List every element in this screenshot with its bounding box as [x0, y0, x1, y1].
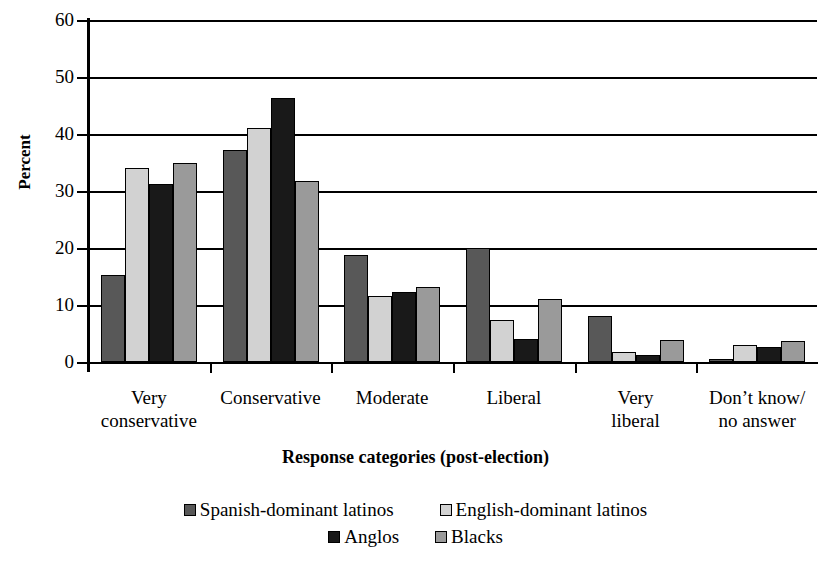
legend-row-2: Anglos Blacks: [0, 523, 831, 550]
legend-swatch-icon: [184, 504, 196, 516]
y-axis-tick: [77, 191, 87, 193]
x-axis-tick-label-line: Don’t know/: [676, 386, 831, 409]
bar: [514, 339, 538, 362]
x-axis-title: Response categories (post-election): [0, 447, 831, 468]
y-axis-tick-label: 40: [34, 124, 74, 143]
y-axis-tick-label: 0: [34, 352, 74, 371]
bar: [149, 184, 173, 362]
bar: [733, 345, 757, 362]
bar: [125, 168, 149, 362]
legend-entry-spanish-dominant-latinos: Spanish-dominant latinos: [184, 499, 394, 521]
legend-swatch-icon: [440, 504, 452, 516]
y-axis-tick-labels: 0102030405060: [30, 20, 74, 362]
legend-label: Spanish-dominant latinos: [200, 499, 394, 521]
legend-label: English-dominant latinos: [456, 499, 648, 521]
x-axis-tick: [210, 362, 212, 373]
y-axis-tick: [77, 362, 87, 364]
y-axis-tick-label: 20: [34, 238, 74, 257]
bar: [466, 248, 490, 362]
x-axis-tick-label: Don’t know/no answer: [676, 386, 831, 432]
bar: [660, 340, 684, 362]
legend-entry-english-dominant-latinos: English-dominant latinos: [440, 499, 648, 521]
legend-label: Anglos: [344, 526, 399, 548]
bar: [612, 352, 636, 362]
y-axis-tick: [77, 20, 87, 22]
bar: [101, 275, 125, 362]
legend-swatch-icon: [435, 531, 447, 543]
bar: [247, 128, 271, 362]
bar: [709, 359, 733, 362]
x-axis-tick-label-line: conservative: [68, 409, 230, 432]
x-axis-tick: [453, 362, 455, 373]
bar: [392, 292, 416, 362]
x-axis-tick: [331, 362, 333, 373]
y-axis-tick: [77, 77, 87, 79]
y-axis-tick: [77, 305, 87, 307]
bar: [173, 163, 197, 363]
y-axis-tick-label: 50: [34, 67, 74, 86]
bar: [588, 316, 612, 362]
legend-swatch-icon: [328, 531, 340, 543]
legend-row-1: Spanish-dominant latinos English-dominan…: [0, 496, 831, 523]
legend-entry-anglos: Anglos: [328, 526, 399, 548]
bars-container: [88, 20, 817, 362]
y-axis-tick-label: 30: [34, 181, 74, 200]
legend-label: Blacks: [451, 526, 503, 548]
y-axis-tick: [77, 134, 87, 136]
bar: [781, 341, 805, 362]
bar: [490, 320, 514, 362]
bar: [344, 255, 368, 362]
bar: [295, 181, 319, 362]
bar-chart-figure: Percent 0102030405060 Response categorie…: [0, 0, 831, 573]
x-axis-tick: [696, 362, 698, 373]
bar: [368, 296, 392, 362]
y-axis-tick: [77, 248, 87, 250]
y-axis-tick-label: 60: [34, 10, 74, 29]
bar: [271, 98, 295, 362]
y-axis-tick-label: 10: [34, 295, 74, 314]
x-axis-tick: [575, 362, 577, 373]
bar: [636, 355, 660, 362]
chart-legend: Spanish-dominant latinos English-dominan…: [0, 496, 831, 550]
bar: [416, 287, 440, 362]
legend-entry-blacks: Blacks: [435, 526, 503, 548]
bar: [757, 347, 781, 362]
x-axis-tick-label-line: no answer: [676, 409, 831, 432]
bar: [223, 150, 247, 362]
bar: [538, 299, 562, 362]
